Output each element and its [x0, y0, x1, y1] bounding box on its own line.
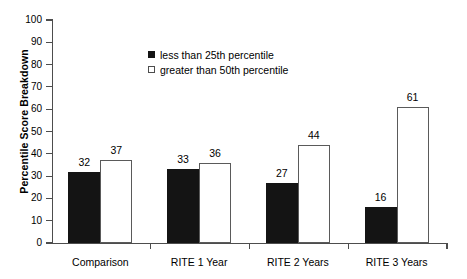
- bar: [100, 160, 132, 243]
- bar: [365, 207, 397, 243]
- y-axis-tick-label: 60: [0, 104, 42, 114]
- legend-item: greater than 50th percentile: [148, 63, 288, 76]
- bar-value-label: 36: [191, 148, 239, 159]
- y-axis-tick: [46, 64, 52, 65]
- x-axis-tick: [150, 243, 151, 249]
- bar-chart: Percentile Score Breakdown 0102030405060…: [0, 0, 467, 279]
- y-axis-tick-label: 30: [0, 171, 42, 181]
- y-axis-tick-label: 70: [0, 82, 42, 92]
- x-axis-tick: [249, 243, 250, 249]
- y-axis-tick-label: 90: [0, 37, 42, 47]
- y-axis-tick-label: 50: [0, 127, 42, 137]
- x-axis-category-label: Comparison: [45, 256, 155, 268]
- bar: [298, 145, 330, 243]
- y-axis-line: [52, 19, 53, 244]
- y-axis-tick-label: 10: [0, 216, 42, 226]
- bar: [68, 172, 100, 243]
- y-axis-tick-label: 100: [0, 15, 42, 25]
- y-axis-tick: [46, 220, 52, 221]
- y-axis-tick: [46, 109, 52, 110]
- bar-value-label: 37: [92, 145, 140, 156]
- legend-swatch-open-square-icon: [148, 66, 155, 73]
- y-axis-tick: [46, 198, 52, 199]
- x-axis-category-label: RITE 1 Year: [144, 256, 254, 268]
- bar: [266, 183, 298, 243]
- y-axis-tick: [46, 153, 52, 154]
- bar-value-label: 61: [389, 92, 437, 103]
- x-axis-category-label: RITE 2 Years: [243, 256, 353, 268]
- bar-value-label: 44: [290, 130, 338, 141]
- y-axis-tick: [46, 86, 52, 87]
- y-axis-tick-label: 20: [0, 193, 42, 203]
- y-axis-tick-label: 80: [0, 60, 42, 70]
- chart-legend: less than 25th percentilegreater than 50…: [148, 48, 288, 78]
- x-axis-category-label: RITE 3 Years: [342, 256, 452, 268]
- y-axis-tick: [46, 131, 52, 132]
- bar: [397, 107, 429, 243]
- y-axis-tick: [46, 176, 52, 177]
- bar: [199, 163, 231, 243]
- y-axis-tick-label: 0: [0, 238, 42, 248]
- y-axis-tick: [46, 242, 52, 243]
- x-axis-tick: [348, 243, 349, 249]
- legend-swatch-filled-square-icon: [148, 51, 155, 58]
- y-axis-tick: [46, 42, 52, 43]
- y-axis-tick: [46, 19, 52, 20]
- x-axis-tick: [446, 243, 447, 249]
- legend-item: less than 25th percentile: [148, 48, 288, 61]
- bar: [167, 169, 199, 243]
- y-axis-tick-label: 40: [0, 149, 42, 159]
- legend-item-label: greater than 50th percentile: [160, 64, 288, 76]
- legend-item-label: less than 25th percentile: [160, 49, 274, 61]
